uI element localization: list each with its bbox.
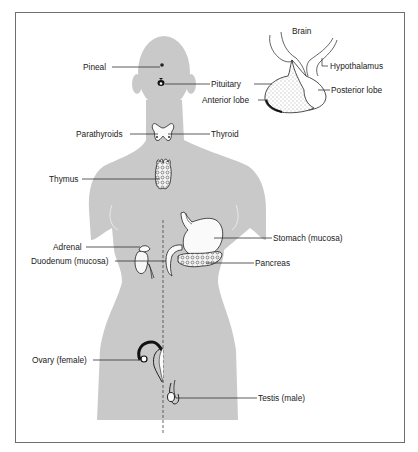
label-adrenal: Adrenal (53, 242, 82, 252)
label-testis: Testis (male) (258, 393, 305, 403)
label-hypothalamus: Hypothalamus (330, 61, 383, 71)
pituitary-inset (265, 32, 337, 113)
label-ovary: Ovary (female) (32, 355, 87, 365)
pineal-gland (160, 63, 164, 67)
label-parathyroids: Parathyroids (76, 129, 123, 139)
label-posterior-lobe: Posterior lobe (331, 85, 382, 95)
label-thymus: Thymus (49, 174, 79, 184)
label-pituitary: Pituitary (211, 79, 241, 89)
label-brain: Brain (292, 26, 311, 36)
label-thyroid: Thyroid (211, 129, 239, 139)
label-duodenum: Duodenum (mucosa) (31, 256, 108, 266)
label-pineal: Pineal (83, 62, 106, 72)
label-anterior-lobe: Anterior lobe (202, 95, 249, 105)
endocrine-diagram: Pineal Pituitary Parathyroids Thyroid Th… (0, 0, 418, 452)
label-stomach: Stomach (mucosa) (273, 233, 343, 243)
thymus-gland (155, 159, 171, 189)
label-pancreas: Pancreas (255, 258, 290, 268)
